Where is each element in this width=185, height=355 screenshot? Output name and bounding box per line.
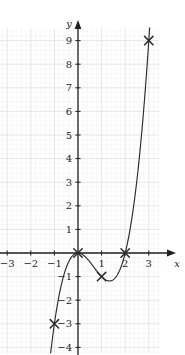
x-axis-tick-label: −1 [47,258,62,269]
y-axis-tick-label: −3 [57,318,72,329]
y-axis-tick-label: 9 [66,35,72,46]
y-axis-tick-label: 2 [66,200,72,211]
y-axis-tick-label: 1 [66,224,72,235]
y-axis-tick-label: 8 [66,59,72,70]
x-axis-tick-label: −3 [0,258,15,269]
graph-figure: −3−2−1123−4−3−2−1123456789xy [0,0,185,355]
x-axis-arrowhead [167,250,176,257]
y-axis-tick-label: 7 [66,82,72,93]
coordinate-plane: −3−2−1123−4−3−2−1123456789xy [0,0,185,355]
y-axis-tick-label: 6 [66,106,72,117]
y-axis-tick-label: −4 [57,342,72,353]
x-axis-tick-label: 1 [98,258,104,269]
x-axis-tick-label: −2 [23,258,38,269]
y-axis-arrowhead [75,20,82,29]
y-axis-label: y [65,18,72,29]
x-axis-label: x [174,258,180,269]
y-axis-tick-label: 4 [66,153,72,164]
y-axis-tick-label: 3 [66,177,72,188]
x-axis-tick-label: 3 [146,258,152,269]
y-axis-tick-label: 5 [66,130,72,141]
